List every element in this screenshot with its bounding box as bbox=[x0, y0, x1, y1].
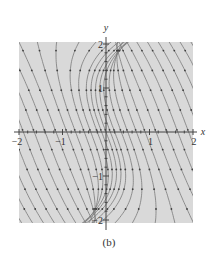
arrow-marker bbox=[67, 109, 69, 111]
arrow-marker bbox=[24, 188, 26, 190]
arrow-marker bbox=[25, 109, 27, 111]
arrow-marker bbox=[195, 50, 197, 52]
arrow-marker bbox=[90, 89, 92, 91]
arrow-marker bbox=[67, 208, 69, 210]
arrow-marker bbox=[77, 228, 79, 230]
arrow-marker bbox=[35, 188, 37, 190]
y-axis-label: y bbox=[103, 22, 109, 33]
arrow-marker bbox=[74, 228, 76, 230]
arrow-marker bbox=[88, 169, 90, 171]
arrow-marker bbox=[210, 208, 212, 210]
arrow-marker bbox=[162, 149, 164, 151]
arrow-marker bbox=[57, 188, 59, 190]
arrow-marker bbox=[84, 228, 86, 230]
arrow-marker bbox=[14, 109, 16, 111]
arrow-marker bbox=[100, 129, 102, 131]
arrow-marker bbox=[127, 149, 129, 151]
arrow-marker bbox=[31, 70, 33, 72]
arrow-marker bbox=[82, 228, 84, 230]
arrow-marker bbox=[55, 50, 57, 52]
arrow-marker bbox=[216, 149, 218, 151]
arrow-marker bbox=[96, 129, 98, 131]
arrow-marker bbox=[150, 89, 152, 91]
arrow-marker bbox=[173, 50, 175, 52]
arrow-marker bbox=[101, 188, 103, 190]
y-tick-label: 2 bbox=[98, 39, 103, 50]
arrow-marker bbox=[86, 188, 88, 190]
arrow-marker bbox=[151, 149, 153, 151]
arrow-marker bbox=[182, 89, 184, 91]
phase-portrait-figure: −2−112−2−112xy (b) bbox=[0, 0, 218, 263]
arrow-marker bbox=[215, 89, 217, 91]
arrow-marker bbox=[169, 109, 171, 111]
arrow-marker bbox=[173, 70, 175, 72]
arrow-marker bbox=[13, 188, 15, 190]
arrow-marker bbox=[109, 188, 111, 190]
arrow-marker bbox=[18, 149, 20, 151]
x-tick-label: 1 bbox=[148, 136, 153, 147]
arrow-marker bbox=[175, 228, 177, 230]
arrow-marker bbox=[199, 208, 201, 210]
arrow-marker bbox=[169, 169, 171, 171]
arrow-marker bbox=[117, 50, 119, 52]
arrow-marker bbox=[103, 70, 105, 72]
arrow-marker bbox=[113, 109, 115, 111]
arrow-marker bbox=[79, 228, 81, 230]
arrow-marker bbox=[74, 50, 76, 52]
arrow-marker bbox=[138, 208, 140, 210]
arrow-marker bbox=[78, 89, 80, 91]
arrow-marker bbox=[124, 169, 126, 171]
arrow-marker bbox=[139, 89, 141, 91]
arrow-marker bbox=[3, 109, 5, 111]
arrow-marker bbox=[46, 188, 48, 190]
arrow-marker bbox=[77, 208, 79, 210]
arrow-marker bbox=[184, 50, 186, 52]
arrow-marker bbox=[43, 129, 45, 131]
arrow-marker bbox=[108, 50, 110, 52]
arrow-marker bbox=[201, 109, 203, 111]
arrow-marker bbox=[109, 89, 111, 91]
arrow-marker bbox=[86, 89, 88, 91]
arrow-marker bbox=[56, 70, 58, 72]
arrow-marker bbox=[127, 109, 129, 111]
figure-caption: (b) bbox=[0, 236, 218, 248]
arrow-marker bbox=[127, 228, 129, 230]
arrow-marker bbox=[118, 188, 120, 190]
arrow-marker bbox=[120, 129, 122, 131]
arrow-marker bbox=[95, 89, 97, 91]
arrow-marker bbox=[88, 50, 90, 52]
arrow-marker bbox=[83, 129, 85, 131]
arrow-marker bbox=[103, 89, 105, 91]
arrow-marker bbox=[7, 149, 9, 151]
arrow-marker bbox=[165, 188, 167, 190]
arrow-marker bbox=[122, 50, 124, 52]
arrow-marker bbox=[184, 70, 186, 72]
arrow-marker bbox=[51, 89, 53, 91]
arrow-marker bbox=[132, 169, 134, 171]
arrow-marker bbox=[98, 188, 100, 190]
arrow-marker bbox=[190, 109, 192, 111]
arrow-marker bbox=[142, 149, 144, 151]
arrow-marker bbox=[102, 109, 104, 111]
arrow-marker bbox=[189, 188, 191, 190]
arrow-marker bbox=[76, 109, 78, 111]
arrow-marker bbox=[89, 70, 91, 72]
arrow-marker bbox=[113, 70, 115, 72]
arrow-marker bbox=[98, 208, 100, 210]
arrow-marker bbox=[11, 129, 13, 131]
arrow-marker bbox=[37, 169, 39, 171]
arrow-marker bbox=[110, 70, 112, 72]
arrow-marker bbox=[147, 109, 149, 111]
phase-portrait-plot: −2−112−2−112xy bbox=[0, 0, 218, 263]
arrow-marker bbox=[79, 70, 81, 72]
arrow-marker bbox=[36, 109, 38, 111]
arrow-marker bbox=[99, 70, 101, 72]
arrow-marker bbox=[163, 50, 165, 52]
y-tick-label: −1 bbox=[92, 171, 103, 182]
arrow-marker bbox=[82, 109, 84, 111]
arrow-marker bbox=[177, 188, 179, 190]
arrow-marker bbox=[6, 89, 8, 91]
arrow-marker bbox=[15, 169, 17, 171]
arrow-marker bbox=[39, 50, 41, 52]
arrow-marker bbox=[33, 129, 35, 131]
